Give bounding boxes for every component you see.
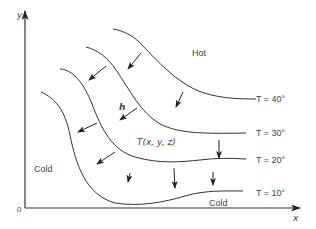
isotherm-30-label: T = 30° (256, 128, 286, 138)
y-axis-label: y (16, 10, 23, 20)
isotherm-40-curve (113, 29, 256, 99)
heat-flow-arrow (128, 173, 130, 182)
isotherm-20-label: T = 20° (256, 155, 286, 165)
isotherms (41, 29, 256, 204)
isotherm-30-curve (86, 47, 246, 133)
heat-flow-arrow (174, 168, 175, 188)
isotherm-20-curve (60, 69, 246, 162)
origin-label: 0 (17, 205, 22, 214)
isotherm-diagram: y x 0 T = 40° T = 30° T = 20° T = 10° Ho… (0, 0, 316, 229)
heat-flow-arrow (128, 53, 141, 69)
temperature-field-label: T(x, y, z) (137, 137, 176, 147)
x-axis-label: x (292, 213, 299, 223)
hot-region-label: Hot (192, 48, 207, 58)
isotherm-labels: T = 40° T = 30° T = 20° T = 10° (256, 94, 286, 198)
vector-h-label: h (119, 102, 125, 112)
region-labels: Hot Cold Cold T(x, y, z) h (34, 48, 228, 208)
isotherm-10-label: T = 10° (256, 188, 286, 198)
heat-flow-arrow (78, 123, 97, 132)
isotherm-40-label: T = 40° (256, 94, 286, 104)
cold-left-region-label: Cold (34, 164, 53, 174)
cold-bottom-region-label: Cold (209, 198, 228, 208)
heat-flow-arrow (97, 152, 115, 164)
heat-flow-arrow (176, 92, 183, 107)
heat-flow-arrow (89, 66, 106, 80)
